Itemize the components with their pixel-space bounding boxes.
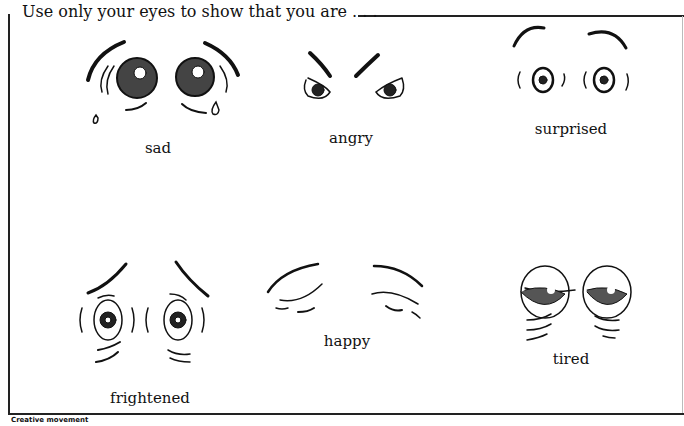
emotion-label-tired: tired [553, 350, 589, 368]
frame-right-border [682, 16, 683, 414]
frame-bottom-border [8, 413, 684, 415]
emotion-label-surprised: surprised [535, 120, 607, 138]
emotion-label-frightened: frightened [110, 389, 190, 407]
emotion-label-angry: angry [329, 129, 373, 147]
angry-eyes-icon [300, 50, 410, 110]
frame-top-border [358, 15, 684, 17]
emotion-label-sad: sad [145, 139, 171, 157]
footer-caption: Creative movement [11, 416, 88, 424]
emotion-label-happy: happy [324, 332, 370, 350]
frightened-eyes-icon [78, 258, 228, 368]
tired-eyes-icon [505, 258, 655, 348]
sad-eyes-icon [80, 40, 250, 130]
surprised-eyes-icon [504, 22, 644, 102]
happy-eyes-icon [262, 260, 442, 320]
frame-left-border [8, 14, 10, 415]
instruction-heading: Use only your eyes to show that you are … [22, 2, 378, 21]
